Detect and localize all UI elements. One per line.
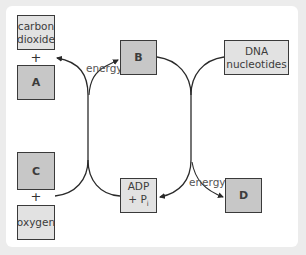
- dna-nucleotides-box: DNA nucleotides: [224, 40, 289, 75]
- box-a-label: A: [32, 76, 41, 89]
- pi-subscript: i: [147, 200, 149, 208]
- box-c: C: [17, 152, 55, 190]
- energy-label-top: energy: [86, 62, 123, 74]
- box-c-label: C: [32, 165, 40, 178]
- box-b: B: [120, 40, 157, 75]
- carbon-dioxide-box: carbon dioxide: [17, 15, 55, 50]
- box-a: A: [17, 65, 55, 100]
- adp-pi-box: ADP + Pi: [120, 178, 157, 213]
- box-d-label: D: [239, 189, 248, 202]
- oxygen-box: oxygen: [17, 205, 55, 240]
- oxygen-label: oxygen: [17, 216, 55, 229]
- energy-label-bottom: energy: [189, 176, 226, 188]
- adp-label: ADP: [128, 180, 150, 193]
- dna-nucleotides-label: DNA nucleotides: [225, 45, 288, 71]
- pi-label: + Pi: [128, 193, 148, 211]
- box-b-label: B: [134, 51, 142, 64]
- box-d: D: [225, 178, 262, 213]
- plus-sign-top: +: [30, 50, 42, 65]
- plus-sign-bottom: +: [30, 189, 42, 204]
- carbon-dioxide-label: carbon dioxide: [17, 20, 55, 46]
